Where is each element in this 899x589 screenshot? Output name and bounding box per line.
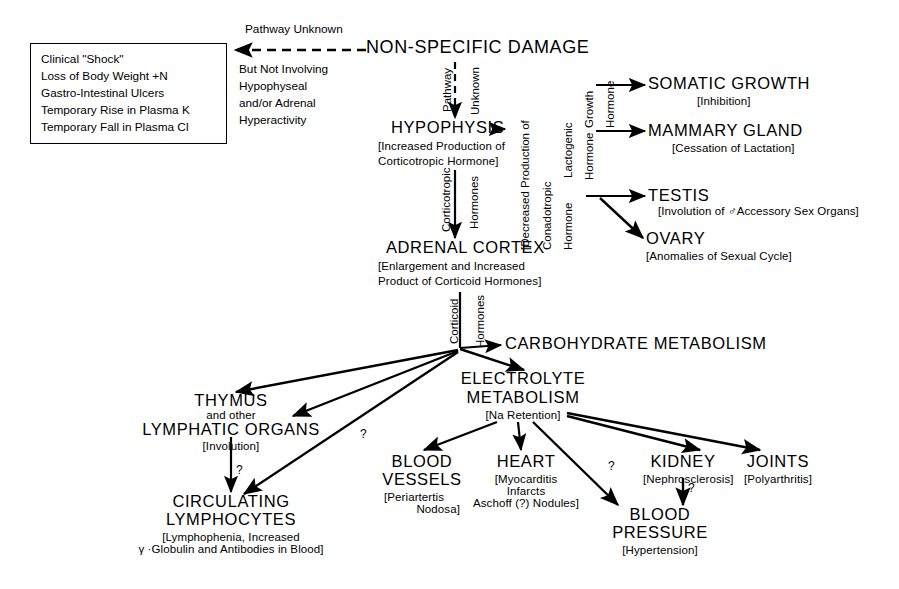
edge-label-growth: Growth [583,91,595,128]
edge-electrolyte-to-heart [518,422,521,450]
node-title: BLOOD [600,505,720,524]
node-non-specific-damage: NON-SPECIFIC DAMAGE [366,37,589,58]
node-caption: [Hypertension] [600,544,720,556]
node-title: KIDNEY [643,452,723,471]
node-blood-vessels: BLOOD VESSELS [Periartertis Nodosa] [372,452,472,515]
node-somatic-growth: SOMATIC GROWTH [648,74,810,93]
node-title: NON-SPECIFIC DAMAGE [366,37,589,58]
edge-electrolyte-to-kidney [567,416,700,450]
node-caption: [Polyarthritis] [728,473,828,485]
node-hypophysis-caption: [Increased Production of Corticotropic H… [378,139,505,168]
clinical-shock-box: Clinical "Shock" Loss of Body Weight +N … [30,43,227,144]
shock-line: Temporary Fall in Plasma Cl [41,119,217,136]
node-title: BLOOD [372,452,472,471]
edge-label-corticotropic: Corticotropic [440,167,452,232]
edge-electrolyte-to-vessels [424,422,497,450]
node-caption: Aschoff (?) Nodules] [466,497,586,509]
node-caption: [Involution] [116,440,346,452]
node-joints: JOINTS [Polyarthritis] [728,452,828,485]
question-mark-thymus-edge: ? [360,427,367,441]
node-title: LYMPHATIC ORGANS [116,420,346,439]
question-mark-kidney-bp-edge: ? [688,481,695,495]
node-heart: HEART [Myocarditis Infarcts Aschoff (?) … [466,452,586,509]
caption-line: Product of Corticoid Hormones] [378,274,541,289]
node-somatic-growth-caption: [Inhibition] [697,95,751,107]
pathway-note-line: Hypophyseal [239,78,328,95]
node-hypophysis: HYPOPHYSIS [391,118,501,137]
node-circulating-lymphocytes: CIRCULATING LYMPHOCYTES [Lymphophenia, I… [116,492,346,555]
node-thymus: THYMUS and other LYMPHATIC ORGANS [Invol… [116,391,346,452]
shock-line: Gastro-Intestinal Ulcers [41,85,217,102]
node-title: THYMUS [116,391,346,410]
node-mammary-gland-caption: [Cessation of Lactation] [672,142,795,154]
node-ovary: OVARY [646,229,705,248]
node-electrolyte-metabolism: ELECTROLYTE METABOLISM [Na Retention] [458,369,588,421]
node-title: SOMATIC GROWTH [648,74,810,93]
node-kidney: KIDNEY [Nephrosclerosis] [643,452,723,485]
caption-line: [Increased Production of [378,139,505,154]
edge-label-hormone-lactogenic: Hormone [583,133,595,180]
edge-label-lactogenic: Lactogenic [562,122,574,178]
node-blood-pressure: BLOOD PRESSURE [Hypertension] [600,505,720,556]
shock-line: Clinical "Shock" [41,51,217,68]
node-title: ELECTROLYTE [458,369,588,388]
caption-line: [Enlargement and Increased [378,259,541,274]
node-mammary-gland: MAMMARY GLAND [648,121,803,140]
node-caption: [Na Retention] [458,409,588,421]
node-testis-caption: [Involution of ♂Accessory Sex Organs] [658,205,859,217]
node-title: HYPOPHYSIS [391,118,501,137]
node-title: OVARY [646,229,705,248]
node-caption: [Myocarditis [466,473,586,485]
node-title: MAMMARY GLAND [648,121,803,140]
shock-line: Loss of Body Weight +N [41,68,217,85]
edge-label-hormone-gonadotropic: Hormone [562,203,574,250]
pathway-note-line: and/or Adrenal [239,95,328,112]
pathway-note-line: But Not Involving [239,61,328,78]
node-testis: TESTIS [648,186,709,205]
question-mark-electrolyte-bp-edge: ? [608,459,615,473]
node-title: PRESSURE [600,523,720,542]
edge-label-decreased-production: [Decreased Production of [519,120,531,250]
edge-hub-to-thymus [236,350,458,392]
edge-label-hormones-2: Hormones [474,295,486,348]
node-caption: γ ·Globulin and Antibodies in Blood] [116,543,346,555]
node-title: JOINTS [728,452,828,471]
node-caption: Infarcts [466,485,586,497]
pathway-unknown-note: But Not Involving Hypophyseal and/or Adr… [239,61,328,129]
node-carbohydrate-metabolism: CARBOHYDRATE METABOLISM [505,334,767,353]
edge-electrolyte-to-joints [567,413,760,450]
edge-gonadotropic-to-ovary [600,198,643,238]
edge-label-conadotropic: Conadotropic [541,182,553,250]
node-title: TESTIS [648,186,709,205]
node-title: VESSELS [372,470,472,489]
question-mark-lymphocytes-edge: ? [236,463,243,477]
node-title: LYMPHOCYTES [116,510,346,529]
node-caption: [Periartertis [372,491,472,503]
node-ovary-caption: [Anomalies of Sexual Cycle] [646,250,792,262]
node-caption: [Nephrosclerosis] [643,473,723,485]
node-caption: [Lymphophenia, Increased [116,531,346,543]
node-title: METABOLISM [458,388,588,407]
pathway-note-line: Hyperactivity [239,112,328,129]
edge-label-corticoid: Corticoid [448,299,460,344]
edge-label-hormone-growth: Hormone [604,81,616,128]
edge-label-unknown: Unknown [469,67,481,115]
node-adrenal-cortex-caption: [Enlargement and Increased Product of Co… [378,259,541,288]
pathway-unknown-heading: Pathway Unknown [245,21,343,38]
edge-label-pathway: Pathway [441,68,453,112]
node-caption: Nodosa] [372,503,472,515]
node-title: CIRCULATING [116,492,346,511]
shock-line: Temporary Rise in Plasma K [41,102,217,119]
node-title: CARBOHYDRATE METABOLISM [505,334,767,353]
edge-label-hormones: Hormones [468,176,480,229]
node-title: HEART [466,452,586,471]
diagram-canvas: Clinical "Shock" Loss of Body Weight +N … [0,0,899,589]
